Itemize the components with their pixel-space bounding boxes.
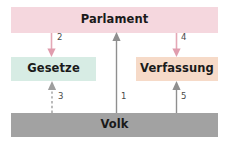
arrow-5-volk-to-verfassung (172, 81, 180, 113)
edge-label-2: 2 (57, 33, 62, 42)
arrow-3-volk-to-gesetze (48, 81, 56, 113)
arrow-1-volk-to-parlament (112, 32, 120, 113)
edge-label-4: 4 (181, 33, 186, 42)
edge-label-5: 5 (181, 92, 186, 101)
arrow-4-parlament-to-verfassung (172, 33, 180, 57)
edge-label-3: 3 (58, 92, 63, 101)
diagram-canvas: Parlament Gesetze Verfassung Volk (0, 0, 229, 145)
arrow-2-parlament-to-gesetze (47, 33, 55, 57)
edge-label-1: 1 (121, 92, 126, 101)
arrow-layer (0, 0, 229, 145)
